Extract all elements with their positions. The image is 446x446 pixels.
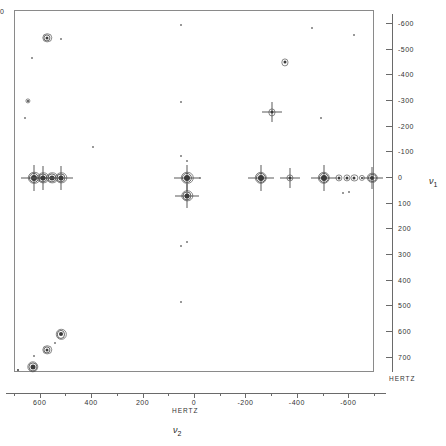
contour-speck bbox=[186, 241, 188, 243]
x-axis-tick-label: 400 bbox=[85, 399, 98, 406]
y-axis-tick-label: -100 bbox=[398, 148, 414, 155]
contour-speck bbox=[186, 160, 188, 162]
x-axis-variable-label: ν2 bbox=[173, 425, 181, 437]
y-axis-tick-label: 700 bbox=[398, 353, 411, 360]
contour-speck bbox=[199, 177, 201, 179]
x-axis-tick bbox=[91, 393, 92, 398]
contour-peak bbox=[262, 102, 282, 122]
peak-core bbox=[370, 176, 374, 180]
contour-peak bbox=[275, 52, 295, 72]
contour-speck bbox=[320, 117, 322, 119]
y-axis-tick-label: 0 bbox=[398, 173, 402, 180]
contour-peak bbox=[280, 168, 300, 188]
y-axis-tick-label: 300 bbox=[398, 250, 411, 257]
peak-core bbox=[284, 61, 287, 64]
contour-speck bbox=[180, 101, 182, 103]
y-axis-tick bbox=[386, 151, 392, 152]
y-axis-tick bbox=[386, 228, 392, 229]
x-axis-tick-label: 600 bbox=[33, 399, 46, 406]
peak-core bbox=[46, 36, 49, 39]
contour-speck bbox=[348, 191, 350, 193]
y-axis-tick-label: -600 bbox=[398, 19, 414, 26]
x-axis-tick bbox=[40, 393, 41, 398]
y-axis-tick-label: -500 bbox=[398, 45, 414, 52]
y-axis-line bbox=[392, 14, 393, 372]
x-axis-minor-tick bbox=[271, 393, 272, 396]
contour-peak bbox=[361, 167, 383, 189]
x-axis-tick-label: -600 bbox=[340, 399, 356, 406]
y-axis-tick bbox=[386, 49, 392, 50]
peak-core bbox=[31, 364, 36, 369]
peak-core bbox=[258, 175, 264, 181]
contour-speck bbox=[180, 301, 182, 303]
y-axis-tick bbox=[386, 357, 392, 358]
y-axis-tick-label: 400 bbox=[398, 276, 411, 283]
x-axis-tick-label: 0 bbox=[192, 399, 196, 406]
y-axis-tick bbox=[386, 74, 392, 75]
x-axis-minor-tick bbox=[14, 393, 15, 396]
peak-core bbox=[321, 175, 327, 181]
x-axis-minor-tick bbox=[323, 393, 324, 396]
y-axis-tick bbox=[386, 305, 392, 306]
y-axis-tick-label: 500 bbox=[398, 302, 411, 309]
y-axis-tick bbox=[386, 331, 392, 332]
contour-peak bbox=[49, 166, 73, 190]
y-axis-tick bbox=[386, 100, 392, 101]
y-axis-tick bbox=[386, 126, 392, 127]
contour-speck bbox=[342, 192, 344, 194]
contour-speck bbox=[180, 24, 182, 26]
peak-core bbox=[46, 348, 49, 351]
peak-core bbox=[17, 369, 19, 371]
contour-speck bbox=[54, 342, 56, 344]
x-axis-tick bbox=[348, 393, 349, 398]
y-axis-tick bbox=[386, 203, 392, 204]
peak-core bbox=[59, 332, 63, 336]
y-axis-tick bbox=[386, 280, 392, 281]
peak-core bbox=[59, 175, 64, 180]
y-axis-tick-label: -400 bbox=[398, 71, 414, 78]
y-axis-tick bbox=[386, 177, 392, 178]
contour-speck bbox=[92, 146, 94, 148]
contour-speck bbox=[31, 57, 33, 59]
y-axis-tick-label: -200 bbox=[398, 122, 414, 129]
y-axis-tick bbox=[386, 23, 392, 24]
x-axis-tick bbox=[143, 393, 144, 398]
y-axis-variable-subscript: 1 bbox=[434, 181, 438, 188]
y-axis-tick-label: 200 bbox=[398, 225, 411, 232]
contour-speck bbox=[60, 38, 62, 40]
contour-speck bbox=[24, 117, 26, 119]
x-axis-tick bbox=[297, 393, 298, 398]
contour-peak bbox=[20, 93, 36, 109]
contour-peak bbox=[37, 28, 57, 48]
contour-speck bbox=[353, 34, 355, 36]
contour-peak bbox=[248, 165, 274, 191]
contour-speck bbox=[180, 245, 182, 247]
x-axis-tick-label: -200 bbox=[237, 399, 253, 406]
y-axis-unit-label: HERTZ bbox=[389, 375, 416, 382]
contour-peak bbox=[9, 361, 27, 379]
x-axis-tick-label: 200 bbox=[136, 399, 149, 406]
x-axis-variable-subscript: 2 bbox=[178, 430, 182, 437]
peak-core bbox=[27, 100, 29, 102]
x-axis-edge-label: 0 bbox=[0, 8, 4, 15]
x-axis-minor-tick bbox=[168, 393, 169, 396]
nmr-spectrum-figure: 6004002000-200-400-600 HERTZ 0 ν2 -600-5… bbox=[0, 0, 446, 446]
peak-core bbox=[184, 175, 190, 181]
contour-speck bbox=[311, 27, 313, 29]
x-axis-tick bbox=[194, 393, 195, 398]
y-axis-variable-label: ν1 bbox=[429, 176, 437, 188]
x-axis-minor-tick bbox=[117, 393, 118, 396]
x-axis-unit-label: HERTZ bbox=[172, 407, 199, 414]
plot-area bbox=[14, 10, 374, 372]
contour-peak-canvas bbox=[15, 11, 373, 371]
x-axis-minor-tick bbox=[220, 393, 221, 396]
x-axis-tick bbox=[245, 393, 246, 398]
contour-peak bbox=[175, 184, 199, 208]
y-axis-tick bbox=[386, 254, 392, 255]
x-axis-minor-tick bbox=[374, 393, 375, 396]
x-axis-minor-tick bbox=[65, 393, 66, 396]
y-axis-tick-label: -300 bbox=[398, 96, 414, 103]
y-axis-tick-label: 100 bbox=[398, 199, 411, 206]
y-axis-tick-label: 600 bbox=[398, 327, 411, 334]
x-axis-line bbox=[6, 393, 386, 394]
